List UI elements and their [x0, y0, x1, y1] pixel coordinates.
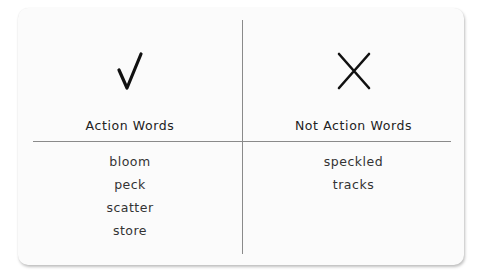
t-chart-card: Action Words bloom peck scatter store No… — [18, 8, 464, 265]
list-item: store — [18, 219, 242, 242]
word-list: speckled tracks — [243, 150, 464, 196]
list-item: scatter — [18, 196, 242, 219]
horizontal-divider — [33, 141, 451, 142]
column-heading: Action Words — [18, 118, 242, 133]
word-list: bloom peck scatter store — [18, 150, 242, 242]
x-mark-icon — [334, 48, 374, 92]
list-item: bloom — [18, 150, 242, 173]
vertical-divider — [242, 20, 243, 254]
list-item: peck — [18, 173, 242, 196]
column-heading: Not Action Words — [243, 118, 464, 133]
check-mark-icon — [113, 48, 147, 92]
list-item: tracks — [243, 173, 464, 196]
list-item: speckled — [243, 150, 464, 173]
